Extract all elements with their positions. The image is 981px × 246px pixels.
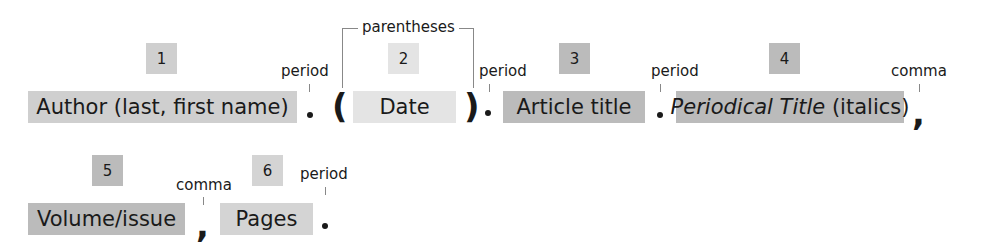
element-number-badge-5: 5 (92, 155, 123, 186)
period-dot-4 (322, 223, 328, 229)
period-tick-2 (489, 84, 490, 92)
element-number-badge-3: 3 (559, 43, 590, 74)
element-number-badge-1: 1 (146, 43, 177, 74)
comma-tick-1 (919, 84, 920, 92)
period-label-1: period (281, 62, 329, 80)
period-dot-2 (485, 110, 491, 116)
element-number-badge-4: 4 (769, 43, 800, 74)
period-tick-1 (309, 84, 310, 92)
comma-tick-2 (203, 197, 204, 205)
period-dot-3 (657, 112, 663, 118)
pages-box: Pages (220, 203, 313, 235)
periodical-title-box: Periodical Title (italics) (676, 91, 904, 123)
parentheses-bracket-right (473, 28, 474, 88)
element-number-badge-6: 6 (252, 155, 283, 186)
comma-symbol-2: , (196, 210, 209, 240)
period-tick-4 (325, 187, 326, 195)
comma-label-1: comma (891, 62, 947, 80)
parentheses-label: parentheses (358, 18, 459, 36)
element-number-badge-2: 2 (388, 43, 419, 74)
volume-issue-box: Volume/issue (28, 203, 185, 235)
comma-label-2: comma (176, 176, 232, 194)
period-label-2: period (479, 62, 527, 80)
close-parenthesis: ) (464, 86, 480, 126)
date-box: Date (353, 91, 456, 123)
period-tick-3 (660, 84, 661, 92)
periodical-title-note: (italics) (825, 95, 909, 119)
author-box: Author (last, first name) (28, 91, 297, 123)
period-label-3: period (651, 62, 699, 80)
period-label-4: period (300, 165, 348, 183)
periodical-title-italic: Periodical Title (671, 95, 826, 119)
period-dot-1 (307, 112, 313, 118)
comma-symbol-1: , (912, 98, 925, 128)
article-title-box: Article title (503, 91, 645, 123)
open-parenthesis: ( (332, 86, 348, 126)
parentheses-bracket-left (342, 28, 343, 88)
